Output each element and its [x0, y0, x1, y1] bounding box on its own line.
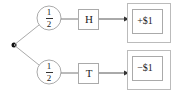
denominator: 2 — [37, 74, 61, 83]
probability-fraction-top: 1 2 — [37, 8, 61, 29]
branch-line-top — [14, 25, 39, 45]
payoff-label-bottom: −$1 — [133, 63, 157, 73]
denominator: 2 — [37, 20, 61, 29]
probability-fraction-bottom: 1 2 — [37, 62, 61, 83]
payoff-label-top: +$1 — [133, 16, 157, 26]
outcome-label-tails: T — [79, 68, 99, 79]
numerator: 1 — [37, 62, 61, 71]
branch-line-bottom — [14, 45, 39, 65]
outcome-label-heads: H — [79, 14, 99, 25]
numerator: 1 — [37, 8, 61, 17]
